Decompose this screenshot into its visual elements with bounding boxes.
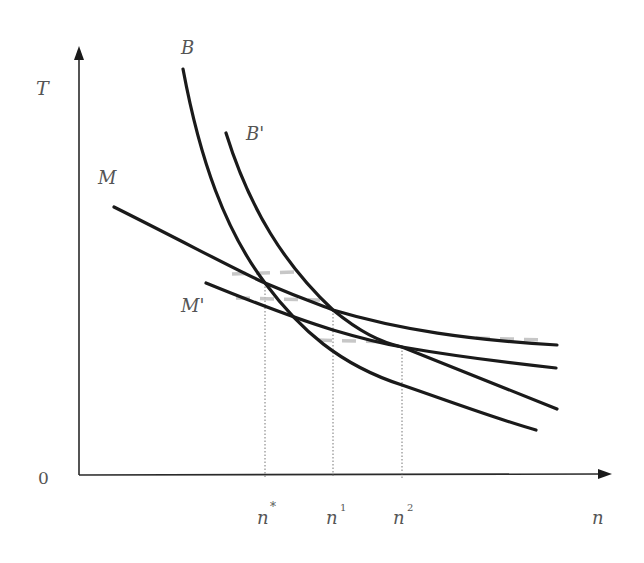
tick-n-star-base: n <box>257 507 269 528</box>
x-axis-arrow-icon <box>598 469 612 479</box>
tick-n2: n 2 <box>393 502 413 528</box>
tick-n2-base: n <box>393 507 405 528</box>
diagram-canvas: T 0 n B B' M M' n * n 1 n 2 <box>0 0 644 563</box>
label-B: B <box>180 37 194 58</box>
tick-n1: n 1 <box>326 502 346 528</box>
label-M: M <box>97 167 117 188</box>
tick-n2-sup: 2 <box>407 502 413 513</box>
curve-M-prime <box>206 283 556 368</box>
tick-n-star-sup: * <box>270 500 276 514</box>
tick-n1-sup: 1 <box>340 502 346 513</box>
label-B-prime: B' <box>245 123 264 144</box>
tick-n1-base: n <box>326 507 338 528</box>
y-axis-label: T <box>36 77 50 99</box>
curve-B-prime <box>226 133 557 409</box>
x-axis <box>79 474 600 475</box>
label-M-prime: M' <box>180 295 204 316</box>
origin-label: 0 <box>38 468 49 488</box>
x-axis-label: n <box>592 507 604 528</box>
y-axis-arrow-icon <box>74 46 84 60</box>
tick-n-star: n * <box>257 500 276 528</box>
curve-B <box>183 69 536 430</box>
curve-M <box>114 207 557 345</box>
